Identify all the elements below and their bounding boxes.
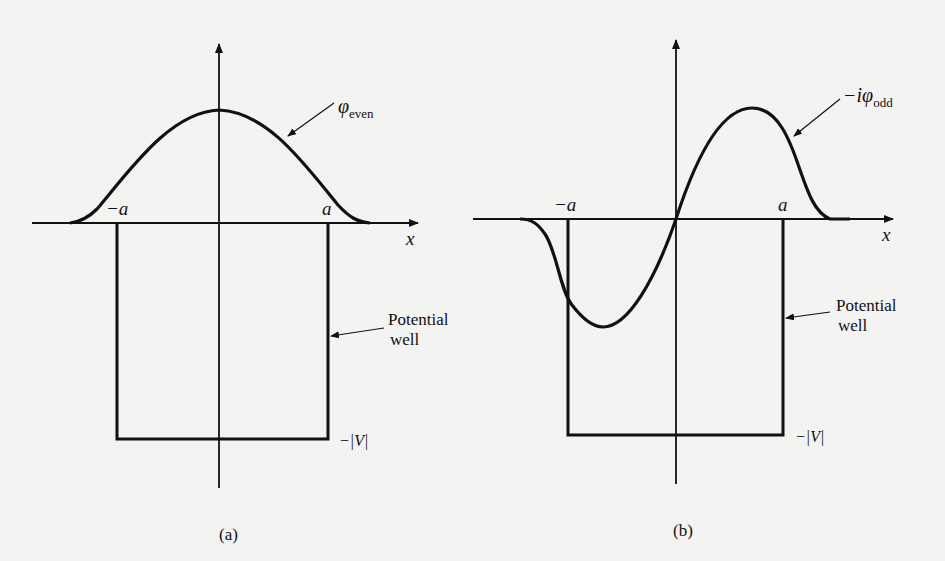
well-label-line1: Potential xyxy=(836,296,897,315)
right-edge-label: a xyxy=(322,198,332,219)
even-wavefunction-label: φeven xyxy=(338,95,374,121)
well-label-line2: well xyxy=(390,330,420,349)
panel-b: −iφodd −a a x Potential well −|V| (b) xyxy=(473,40,897,540)
well-label-line1: Potential xyxy=(388,310,449,329)
well-label-arrow xyxy=(331,328,384,336)
well-label-arrow xyxy=(786,312,830,318)
well-depth-label: −|V| xyxy=(795,428,824,446)
panel-caption: (b) xyxy=(673,521,693,540)
left-edge-label: −a xyxy=(106,198,128,219)
panel-a: φeven −a a x Potential well −|V| (a) xyxy=(32,44,449,544)
potential-well xyxy=(117,223,328,439)
right-edge-label: a xyxy=(778,194,788,215)
well-label-line2: well xyxy=(838,316,868,335)
finite-square-well-figure: φeven −a a x Potential well −|V| (a) −iφ… xyxy=(0,0,945,561)
left-edge-label: −a xyxy=(554,194,576,215)
odd-label-arrow xyxy=(794,99,840,136)
odd-wavefunction-label: −iφodd xyxy=(843,84,893,110)
x-axis-label: x xyxy=(405,228,415,249)
panel-caption: (a) xyxy=(219,525,238,544)
even-label-arrow xyxy=(288,103,334,136)
well-depth-label: −|V| xyxy=(339,432,368,450)
x-axis-label: x xyxy=(881,224,891,245)
